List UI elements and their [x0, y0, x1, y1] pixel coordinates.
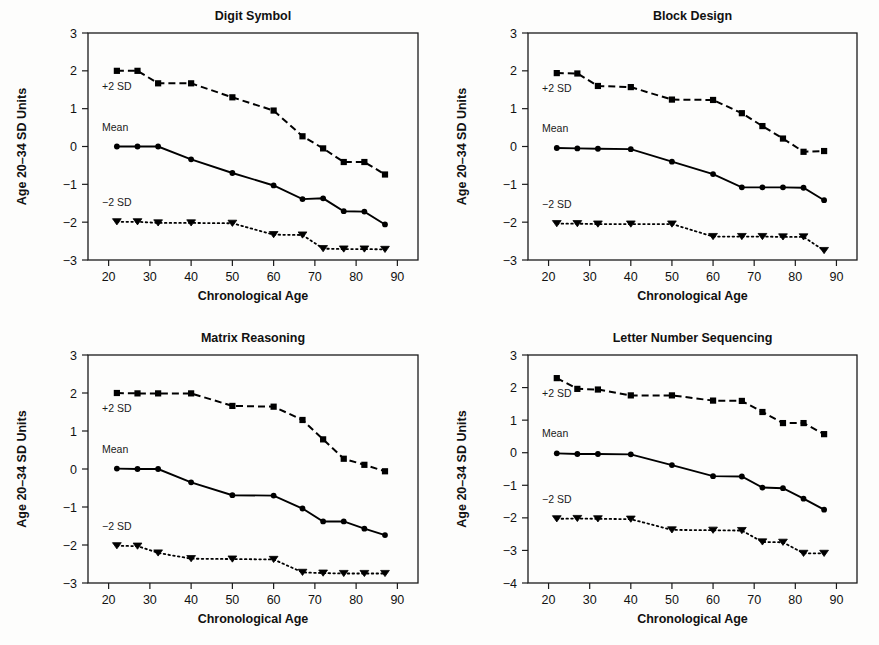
data-point-marker	[821, 197, 827, 203]
data-point-marker	[739, 184, 745, 190]
x-tick-label: 80	[349, 270, 363, 284]
y-tick-label: 1	[510, 102, 517, 116]
series-annotation: +2 SD	[102, 80, 132, 92]
data-point-marker	[271, 107, 277, 113]
data-point-marker	[300, 196, 306, 202]
y-axis-title: Age 20–34 SD Units	[455, 410, 469, 527]
data-point-marker	[382, 222, 388, 228]
data-point-marker	[739, 474, 745, 480]
data-point-marker	[155, 390, 161, 396]
data-point-marker	[341, 456, 347, 462]
x-tick-label: 20	[542, 270, 556, 284]
x-tick-label: 60	[706, 270, 720, 284]
x-tick-label: 30	[583, 270, 597, 284]
x-tick-label: 70	[747, 270, 761, 284]
y-tick-label: 2	[70, 387, 77, 401]
y-tick-label: 1	[70, 425, 77, 439]
y-tick-label: −2	[503, 511, 517, 525]
y-tick-label: −3	[503, 544, 517, 558]
data-point-marker	[188, 479, 194, 485]
y-tick-label: −2	[503, 216, 517, 230]
data-point-marker	[271, 404, 277, 410]
y-tick-label: −2	[63, 216, 77, 230]
data-point-marker	[574, 145, 580, 151]
y-tick-label: −2	[63, 539, 77, 553]
x-tick-label: 80	[349, 593, 363, 607]
panel-title: Digit Symbol	[215, 9, 291, 23]
series-annotation: Mean	[102, 121, 128, 133]
panel-title: Block Design	[653, 9, 732, 23]
series-annotation: −2 SD	[542, 493, 572, 505]
y-tick-label: 2	[510, 381, 517, 395]
data-point-marker	[669, 96, 675, 102]
y-tick-label: 0	[70, 140, 77, 154]
data-point-marker	[271, 183, 277, 189]
data-point-marker	[628, 392, 634, 398]
data-point-marker	[780, 184, 786, 190]
data-point-marker	[574, 70, 580, 76]
chart-svg-bottom-left: Matrix Reasoning−3−2−1012320304050607080…	[0, 322, 440, 645]
data-point-marker	[760, 184, 766, 190]
y-tick-label: 3	[510, 27, 517, 41]
y-tick-label: −4	[503, 577, 517, 591]
y-tick-label: −3	[63, 577, 77, 591]
data-point-marker	[821, 148, 827, 154]
data-point-marker	[574, 386, 580, 392]
x-tick-label: 60	[267, 270, 281, 284]
x-tick-label: 70	[747, 593, 761, 607]
data-point-marker	[155, 80, 161, 86]
data-point-marker	[780, 420, 786, 426]
x-axis-title: Chronological Age	[198, 289, 309, 303]
data-point-marker	[801, 185, 807, 191]
chart-svg-top-left: Digit Symbol−3−2−101232030405060708090Ch…	[0, 0, 440, 322]
y-tick-label: −3	[503, 254, 517, 268]
data-point-marker	[554, 450, 560, 456]
y-tick-label: 0	[510, 140, 517, 154]
data-point-marker	[114, 144, 120, 150]
series-annotation: Mean	[102, 443, 128, 455]
data-point-marker	[299, 133, 305, 139]
data-point-marker	[361, 159, 367, 165]
data-point-marker	[595, 83, 601, 89]
data-point-marker	[361, 209, 367, 215]
data-point-marker	[229, 94, 235, 100]
x-axis-title: Chronological Age	[198, 612, 309, 626]
y-tick-label: −1	[63, 178, 77, 192]
data-point-marker	[341, 208, 347, 214]
x-axis-title: Chronological Age	[637, 289, 748, 303]
data-point-marker	[628, 84, 634, 90]
y-tick-label: 2	[510, 64, 517, 78]
series-annotation: −2 SD	[542, 198, 572, 210]
x-tick-label: 30	[143, 270, 157, 284]
data-point-marker	[112, 543, 121, 549]
data-point-marker	[135, 466, 141, 472]
y-tick-label: −3	[63, 254, 77, 268]
x-axis-title: Chronological Age	[637, 612, 748, 626]
data-point-marker	[114, 466, 120, 472]
x-tick-label: 80	[788, 593, 802, 607]
chart-panel-top-left: Digit Symbol−3−2−101232030405060708090Ch…	[0, 0, 440, 322]
series-annotation: −2 SD	[102, 520, 132, 532]
y-tick-label: 0	[510, 446, 517, 460]
x-tick-label: 50	[225, 593, 239, 607]
data-point-marker	[710, 171, 716, 177]
data-point-marker	[710, 473, 716, 479]
data-point-marker	[780, 135, 786, 141]
series-line-solid	[557, 148, 824, 200]
data-point-marker	[319, 246, 328, 252]
data-point-marker	[554, 145, 560, 151]
y-tick-label: 3	[510, 349, 517, 363]
data-point-marker	[112, 219, 121, 225]
data-point-marker	[361, 526, 367, 532]
x-tick-label: 40	[624, 593, 638, 607]
x-tick-label: 90	[390, 593, 404, 607]
data-point-marker	[320, 436, 326, 442]
y-tick-label: −1	[63, 501, 77, 515]
data-point-marker	[628, 146, 634, 152]
x-tick-label: 70	[308, 593, 322, 607]
data-point-marker	[821, 431, 827, 437]
panel-title: Matrix Reasoning	[201, 331, 305, 345]
data-point-marker	[133, 543, 142, 549]
series-annotation: +2 SD	[542, 82, 572, 94]
x-tick-label: 40	[184, 593, 198, 607]
